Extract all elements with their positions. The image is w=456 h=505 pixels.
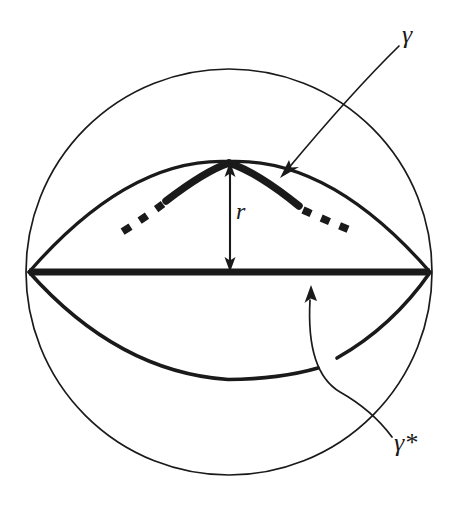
gamma-callout-line: [287, 46, 399, 170]
figure-container: γ γ* r: [0, 0, 456, 505]
gamma-curve-left-dashed: [122, 204, 163, 232]
gamma-label: γ: [402, 22, 412, 48]
radius-label: r: [236, 199, 245, 223]
gamma-curve-right-dashed: [303, 210, 350, 230]
lens-lower-arc-right: [337, 273, 430, 359]
lens-lower-arc-left: [29, 272, 318, 380]
gamma-star-label: γ*: [394, 430, 417, 456]
gamma-star-callout-line: [310, 300, 392, 437]
geometry-diagram: [0, 0, 456, 505]
